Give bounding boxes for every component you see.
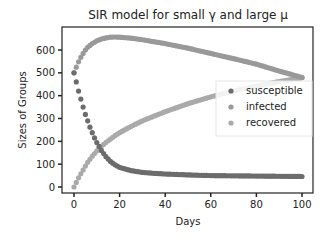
y-tick-label: 100 [36, 159, 55, 170]
x-tick-label: 20 [113, 199, 126, 210]
chart-title: SIR model for small γ and large μ [88, 8, 288, 22]
susceptible-point [92, 135, 97, 140]
legend: susceptibleinfectedrecovered [216, 81, 312, 136]
susceptible-point [74, 79, 79, 84]
y-tick-label: 200 [36, 136, 55, 147]
susceptible-point [71, 70, 76, 75]
recovered-point [74, 180, 79, 185]
y-tick-label: 500 [36, 67, 55, 78]
susceptible-point [81, 104, 86, 109]
legend-label-susceptible: susceptible [246, 85, 303, 96]
y-tick-label: 400 [36, 90, 55, 101]
susceptible-point [90, 130, 95, 135]
legend-label-infected: infected [246, 101, 287, 112]
legend-marker-susceptible [228, 88, 233, 93]
x-axis-label: Days [176, 216, 201, 227]
x-tick-label: 60 [204, 199, 217, 210]
x-tick-label: 40 [159, 199, 172, 210]
y-tick-label: 0 [49, 182, 55, 193]
y-tick-label: 300 [36, 113, 55, 124]
legend-marker-recovered [228, 120, 233, 125]
legend-label-recovered: recovered [246, 117, 296, 128]
y-tick-label: 600 [36, 45, 55, 56]
x-tick-label: 100 [292, 199, 311, 210]
sir-chart: SIR model for small γ and large μ 010020… [0, 0, 333, 240]
susceptible-point [85, 118, 90, 123]
susceptible-point [299, 174, 304, 179]
y-axis-label: Sizes of Groups [17, 71, 28, 148]
susceptible-point [83, 112, 88, 117]
infected-point [74, 65, 79, 70]
x-tick-label: 80 [250, 199, 263, 210]
x-tick-label: 0 [71, 199, 77, 210]
susceptible-point [78, 96, 83, 101]
infected-point [76, 59, 81, 64]
recovered-point [71, 184, 76, 189]
infected-point [299, 75, 304, 80]
susceptible-point [87, 125, 92, 130]
susceptible-point [76, 89, 81, 94]
legend-marker-infected [228, 104, 233, 109]
series-infected [71, 34, 304, 80]
